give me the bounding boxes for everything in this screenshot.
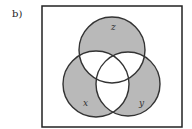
venn-diagram: z x y [0, 0, 192, 129]
set-label-z: z [110, 22, 116, 32]
set-label-y: y [138, 98, 145, 108]
set-label-x: x [83, 98, 88, 108]
region-only-y [0, 0, 192, 129]
